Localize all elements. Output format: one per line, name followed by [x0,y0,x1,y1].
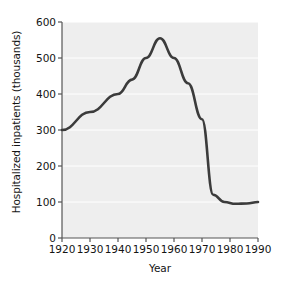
x-axis-ticks [62,238,258,242]
y-tick-600: 600 [24,22,56,32]
x-axis-title: Year [62,262,258,274]
y-tick-label: 100 [24,197,56,207]
x-tick-1990: 1990 [238,243,278,255]
y-tick-300: 300 [24,130,56,140]
y-tick-label: 0 [24,233,56,243]
y-tick-100: 100 [24,202,56,212]
y-tick-label: 500 [24,53,56,63]
y-tick-label: 400 [24,89,56,99]
chart-figure: Hospitalized inpatients (thousands) 600 … [0,0,301,285]
y-tick-400: 400 [24,94,56,104]
y-tick-500: 500 [24,58,56,68]
y-tick-label: 600 [24,17,56,27]
y-tick-label: 200 [24,161,56,171]
y-tick-200: 200 [24,166,56,176]
y-tick-label: 300 [24,125,56,135]
y-axis-title: Hospitalized inpatients (thousands) [8,2,24,242]
